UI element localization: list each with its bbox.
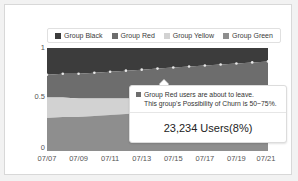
y-axis-tick: 1 [41,44,45,52]
boundary-point [93,71,96,74]
tooltip-line-2: This group's Possibility of Churn is 50~… [136,99,280,108]
y-axis-tick: 0.5 [35,93,45,101]
y-axis: 1 0.5 0 [23,44,45,155]
boundary-point [188,65,191,68]
legend-label: Group Yellow [173,32,214,39]
tooltip-swatch-icon [136,92,141,97]
legend-swatch-icon [112,33,118,39]
legend-item-group-green[interactable]: Group Green [223,32,273,39]
boundary-point [125,69,128,72]
boundary-point [219,63,222,66]
legend-label: Group Red [121,32,155,39]
boundary-point [235,62,238,65]
x-axis-tick: 07/09 [69,155,88,163]
legend-item-group-red[interactable]: Group Red [112,32,155,39]
boundary-point [61,72,64,75]
legend-item-group-yellow[interactable]: Group Yellow [164,32,214,39]
x-axis-tick: 07/15 [164,155,183,163]
x-axis-tick: 07/19 [227,155,246,163]
legend-swatch-icon [223,33,229,39]
legend-item-group-black[interactable]: Group Black [55,32,103,39]
legend-label: Group Black [64,32,103,39]
boundary-point [77,72,80,75]
tooltip-total-users: 23,234 Users(8%) [164,122,253,134]
y-axis-tick: 0 [41,144,45,152]
x-axis: 07/07 07/09 07/11 07/13 07/15 07/17 07/1… [47,155,268,167]
x-axis-tick: 07/11 [101,155,119,163]
legend-swatch-icon [55,33,61,39]
chart-card: Group Black Group Red Group Yellow Group… [4,4,292,175]
boundary-point [109,70,112,73]
boundary-point [156,67,159,70]
tooltip-line-1: Group Red users are about to leave. [136,90,280,99]
tooltip-total-row: 23,234 Users(8%) [130,113,286,142]
legend-label: Group Green [232,32,273,39]
boundary-point [172,66,175,69]
x-axis-tick: 07/13 [132,155,151,163]
x-axis-tick: 07/17 [196,155,215,163]
chart-legend: Group Black Group Red Group Yellow Group… [47,28,281,43]
tooltip-description: Group Red users are about to leave. This… [130,86,286,113]
x-axis-tick: 07/07 [38,155,57,163]
legend-swatch-icon [164,33,170,39]
chart-tooltip: Group Red users are about to leave. This… [129,85,287,143]
tooltip-text: Group Red users are about to leave. [144,90,254,99]
boundary-point [204,64,207,67]
boundary-point [140,68,143,71]
boundary-point [251,61,254,64]
x-axis-tick: 07/21 [257,155,276,163]
